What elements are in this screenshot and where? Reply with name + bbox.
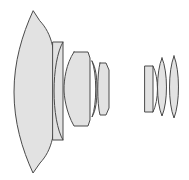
lens-diagram (0, 0, 189, 180)
lens-element-element-6 (145, 66, 153, 112)
lens-cross-section-svg (0, 0, 189, 180)
lens-element-element-5 (98, 63, 109, 115)
lens-element-element-7 (158, 58, 167, 116)
lens-element-element-8 (170, 56, 179, 118)
